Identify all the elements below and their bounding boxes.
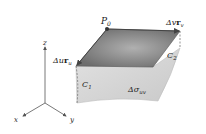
- label-axis-z: z: [42, 39, 47, 47]
- label-delta-u-ru: Δuru: [52, 55, 72, 66]
- label-delta-v-rv: Δvrv: [165, 17, 185, 28]
- label-axis-x: x: [14, 116, 18, 124]
- surface-area-diagram: P0 Δvrv Δuru C1 C2 Δσuv z x y: [0, 0, 206, 134]
- label-axis-y: y: [69, 116, 75, 124]
- point-p0: [105, 27, 109, 31]
- label-p0: P0: [100, 16, 111, 27]
